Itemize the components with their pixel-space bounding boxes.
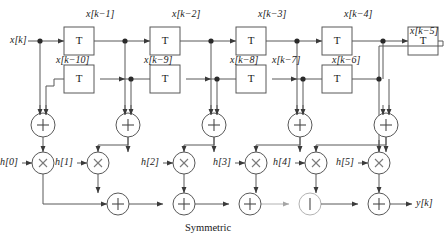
delay-top-1-label: T (64, 34, 94, 46)
signal-label-xk3: x[k−3] (258, 8, 286, 19)
signal-label-xk1: x[k−1] (86, 8, 114, 19)
coefficient-h1-label: h[1] (55, 156, 73, 167)
signal-label-xk2: x[k−2] (172, 8, 200, 19)
signal-label-xk6: x[k−6] (332, 54, 360, 65)
output-label: y[k] (416, 197, 433, 208)
delay-top-4-label: T (322, 34, 352, 46)
signal-label-xk8: x[k−8] (230, 54, 258, 65)
signal-label-xk5: x[k−5] (410, 25, 438, 36)
figure-caption: Symmetric (185, 222, 231, 233)
delay-bottom-8-label: T (150, 72, 180, 84)
coefficient-h5-label: h[5] (336, 156, 354, 167)
signal-label-xk10: x[k−10] (56, 54, 89, 65)
coefficient-h2-label: h[2] (141, 156, 159, 167)
delay-bottom-6-label: T (322, 72, 352, 84)
coefficient-h4-label: h[4] (273, 156, 291, 167)
wire-m0-to-acc1 (43, 174, 107, 204)
signal-label-xk7: x[k−7] (272, 54, 300, 65)
wire-a3-m3 (256, 137, 300, 152)
signal-label-xk4: x[k−4] (344, 8, 372, 19)
wire-a2-m2 (184, 137, 214, 152)
delay-bottom-7-label: T (236, 72, 266, 84)
coefficient-h0-label: h[0] (0, 156, 18, 167)
signal-label-xk9: x[k−9] (144, 54, 172, 65)
coefficient-h3-label: h[3] (213, 156, 231, 167)
wire-a4-m4 (316, 137, 386, 152)
delay-bottom-9-label: T (64, 72, 94, 84)
delay-top-3-label: T (236, 34, 266, 46)
wire-a1-m1 (98, 137, 128, 152)
input-label: x[k] (10, 34, 27, 45)
wire-delayb10-to-adder0 (46, 79, 64, 113)
delay-top-2-label: T (150, 34, 180, 46)
